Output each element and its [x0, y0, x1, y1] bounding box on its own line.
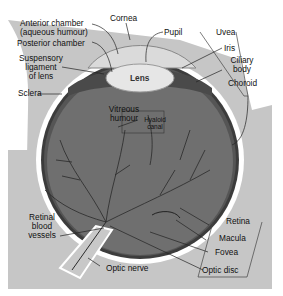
label-canal: canal: [142, 123, 168, 130]
vitreous-humour: [47, 69, 233, 255]
label-lens: Lens: [130, 74, 149, 83]
label-hyaloid: Hyaloid: [142, 116, 168, 123]
label-retina: Retina: [226, 217, 250, 226]
label-humour: humour: [104, 114, 144, 123]
label-uvea: Uvea: [216, 28, 235, 37]
label-cornea: Cornea: [110, 14, 137, 23]
label-sclera: Sclera: [18, 89, 42, 98]
label-optic-nerve: Optic nerve: [106, 264, 148, 273]
label-iris: Iris: [224, 44, 235, 53]
label-pupil: Pupil: [164, 28, 182, 37]
label-choroid: Choroid: [228, 79, 257, 88]
label-of-lens: of lens: [17, 72, 65, 81]
label-fovea: Fovea: [215, 248, 238, 257]
label-aqueous-humour: (aqueous humour): [20, 28, 88, 37]
label-posterior-chamber: Posterior chamber: [17, 39, 85, 48]
label-macula: Macula: [219, 234, 246, 243]
label-body: body: [224, 65, 260, 74]
label-optic-disc: Optic disc: [202, 266, 238, 275]
label-vessels: vessels: [24, 231, 60, 240]
